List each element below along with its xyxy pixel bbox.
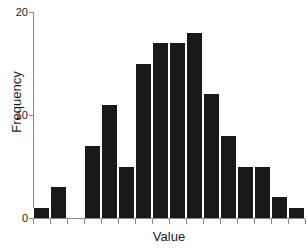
plot-area [33, 12, 305, 218]
x-tick-mark [33, 219, 34, 224]
y-tick-label-10: 10 [0, 110, 28, 120]
histogram-bar [84, 146, 101, 218]
x-tick-mark [186, 219, 187, 224]
histogram-bar [220, 136, 237, 218]
histogram-bar [254, 167, 271, 219]
x-tick-mark [237, 219, 238, 224]
x-tick-mark [152, 219, 153, 224]
x-tick-mark [67, 219, 68, 224]
histogram-bar [271, 197, 288, 218]
y-axis-label: Frequency [7, 47, 27, 157]
x-tick-mark [271, 219, 272, 224]
histogram-bar [33, 208, 50, 218]
histogram-bar [101, 105, 118, 218]
histogram-bar [118, 167, 135, 219]
x-tick-mark [288, 219, 289, 224]
histogram-bar-outlier [288, 208, 305, 218]
y-tick-label-20: 20 [0, 7, 28, 17]
histogram-bar [169, 43, 186, 218]
x-axis-label: Value [33, 229, 305, 244]
y-tick-label-0: 0 [0, 213, 28, 223]
histogram-figure: Frequency 20 10 0 Value [0, 0, 307, 248]
histogram-bar [186, 33, 203, 218]
x-tick-mark [118, 219, 119, 224]
x-tick-mark [50, 219, 51, 224]
histogram-bar [203, 94, 220, 218]
histogram-bar [50, 187, 67, 218]
x-tick-mark [135, 219, 136, 224]
histogram-bar [152, 43, 169, 218]
x-tick-mark [254, 219, 255, 224]
x-tick-mark [220, 219, 221, 224]
x-tick-mark [169, 219, 170, 224]
x-tick-mark [305, 219, 306, 224]
histogram-bar [237, 167, 254, 219]
x-tick-mark [203, 219, 204, 224]
x-tick-mark [84, 219, 85, 224]
x-tick-mark [101, 219, 102, 224]
histogram-bar [135, 64, 152, 219]
